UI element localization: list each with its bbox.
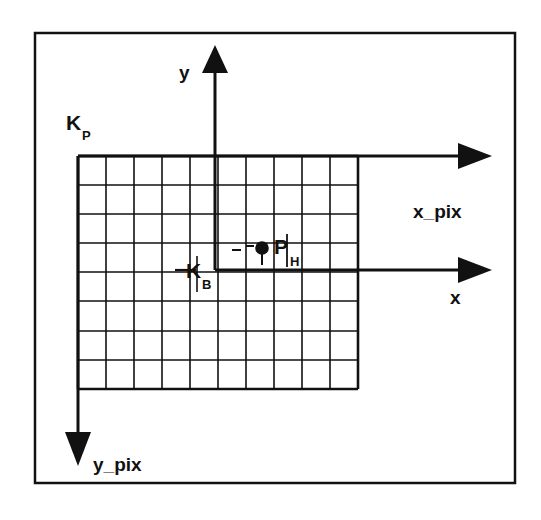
label-p-h-subscript: H	[290, 254, 299, 269]
figure-frame	[35, 33, 515, 483]
label-k-p-base: K	[66, 111, 81, 134]
coordinate-systems-diagram: K P K B P H x_pix y_pix x y	[0, 0, 541, 520]
label-k-b-base: K	[186, 259, 201, 282]
label-p-h-base: P	[274, 235, 288, 258]
label-k-p-subscript: P	[82, 128, 91, 143]
label-y-pix: y_pix	[93, 454, 142, 475]
label-k-b-subscript: B	[202, 277, 211, 292]
label-y-axis: y	[179, 62, 190, 83]
figure-container: K P K B P H x_pix y_pix x y	[0, 0, 541, 520]
point-p-h-marker	[255, 241, 269, 255]
label-x-pix: x_pix	[413, 201, 462, 222]
label-x-axis: x	[450, 287, 461, 308]
